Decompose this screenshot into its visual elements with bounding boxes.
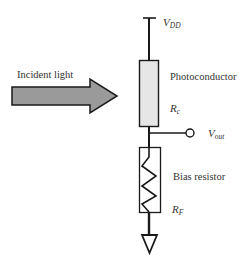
ground-symbol: [142, 212, 157, 253]
incident-light-arrow-icon: [12, 79, 117, 113]
bias-resistor-label: Bias resistor: [173, 171, 226, 182]
photoconductor-label: Photoconductor: [170, 71, 237, 82]
incident-light-label: Incident light: [17, 69, 73, 80]
vout-terminal: [186, 129, 194, 137]
vdd-label: VDD: [163, 16, 181, 30]
junction-wire: [149, 126, 186, 147]
circuit-diagram: VDD Photoconductor Rc Vout Bias resistor…: [0, 0, 248, 267]
bias-resistor: [140, 147, 161, 213]
vdd-rail: [143, 18, 156, 60]
vout-label: Vout: [208, 127, 225, 141]
rc-label: Rc: [169, 102, 181, 116]
rf-label: RF: [171, 203, 184, 217]
photoconductor: [140, 61, 159, 127]
